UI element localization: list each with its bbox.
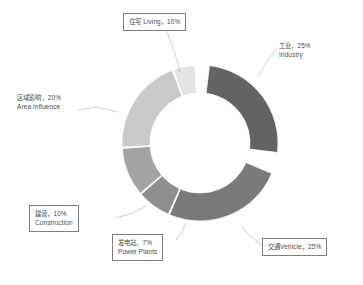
donut-slice-area_influence[interactable] [122, 70, 182, 147]
slice-label-area-influence-line1: 区域影响，20% [17, 93, 61, 102]
slice-label-industry-line2: Industry [279, 50, 311, 59]
slice-label-construction: 建设，10% Construction [29, 205, 79, 232]
slice-label-industry: 工业，25% Industry [279, 41, 311, 59]
slice-label-area-influence: 区域影响，20% Area Influence [17, 93, 61, 111]
leader-line-industry [258, 49, 277, 76]
donut-slice-group [122, 65, 278, 221]
leader-line-vehicle [241, 226, 262, 245]
slice-label-living: 住宅 Living，10% [123, 13, 186, 31]
donut-slice-industry[interactable] [206, 66, 278, 153]
leader-line-power-plants [176, 223, 186, 240]
slice-label-power-plants: 发电站，7% Power Plants [112, 234, 163, 261]
slice-label-living-line1: 住宅 Living，10% [129, 17, 180, 26]
slice-label-vehicle: 交通Vehicle，25% [262, 238, 327, 256]
slice-label-area-influence-line2: Area Influence [17, 102, 61, 111]
slice-label-construction-line2: Construction [35, 218, 73, 227]
slice-label-industry-line1: 工业，25% [279, 41, 311, 50]
slice-label-construction-line1: 建设，10% [35, 209, 73, 218]
leader-line-living [166, 29, 180, 72]
donut-slice-vehicle[interactable] [170, 163, 272, 221]
leader-line-area-influence [78, 107, 117, 112]
slice-label-power-plants-line1: 发电站，7% [118, 238, 157, 247]
chart-canvas: 住宅 Living，10% 工业，25% Industry 区域影响，20% A… [0, 0, 363, 285]
slice-label-vehicle-line1: 交通Vehicle，25% [268, 242, 321, 251]
leader-line-construction [116, 206, 146, 218]
slice-label-power-plants-line2: Power Plants [118, 247, 157, 256]
